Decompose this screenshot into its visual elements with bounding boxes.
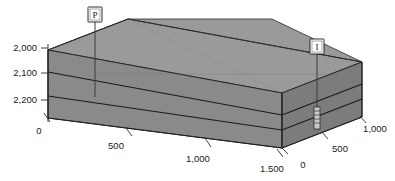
y-axis-tick-1000 [360,116,366,123]
y-axis-tick-500 [322,132,328,139]
depth-tick-label-2000: 2,000 [13,42,37,53]
depth-tick-label-2200: 2,200 [13,94,37,105]
y-axis-tick-0 [282,148,288,154]
y-tick-label-1000: 1,000 [363,123,387,134]
depth-axis: 2,000 2,100 2,200 [13,42,48,122]
well-producer-label: P [92,10,97,20]
x-axis-tick-500 [126,128,132,136]
x-tick-label-0: 0 [36,125,41,136]
plot-canvas: 2,000 2,100 2,200 0 500 1,000 1.500 0 50… [0,0,395,181]
depth-tick-label-2100: 2,100 [13,67,37,78]
well-injector-label: I [316,42,319,52]
y-tick-label-0: 0 [300,159,305,170]
well-injector-perforation [314,107,320,129]
x-tick-label-1000: 1,000 [186,153,210,164]
x-tick-label-500: 500 [108,140,124,151]
x-axis-tick-1500 [277,149,283,157]
x-axis-tick-1000 [205,138,211,147]
reservoir-3d-figure: 2,000 2,100 2,200 0 500 1,000 1.500 0 50… [0,0,395,181]
y-tick-label-500: 500 [332,143,348,154]
x-tick-label-1500: 1.500 [260,163,284,174]
